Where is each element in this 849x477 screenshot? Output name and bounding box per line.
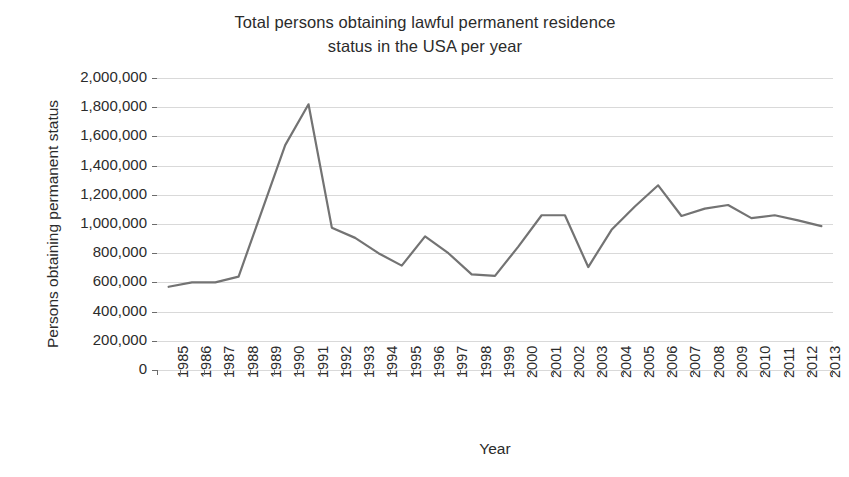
x-axis-tick-mark — [274, 370, 275, 375]
y-axis-tick-label: 1,600,000 — [47, 126, 147, 143]
x-axis-tick-label: 1986 — [198, 346, 214, 378]
x-axis-tick-mark — [437, 370, 438, 375]
x-axis-tick-mark — [297, 370, 298, 375]
y-axis-tick-labels: 2,000,0001,800,0001,600,0001,400,0001,20… — [47, 78, 147, 370]
x-axis-tick-label: 1987 — [221, 346, 237, 378]
x-axis-tick-label: 1990 — [291, 346, 307, 378]
x-axis-tick-label: 2009 — [734, 346, 750, 378]
x-axis-tick-mark — [367, 370, 368, 375]
x-axis-tick-mark — [553, 370, 554, 375]
x-axis-tick-label: 2006 — [664, 346, 680, 378]
line-chart: Total persons obtaining lawful permanent… — [0, 0, 849, 477]
x-axis-tick-label: 1993 — [361, 346, 377, 378]
chart-title: Total persons obtaining lawful permanent… — [120, 10, 730, 58]
x-axis-tick-mark — [413, 370, 414, 375]
x-axis-tick-label: 2000 — [524, 346, 540, 378]
y-axis-tick-label: 400,000 — [47, 302, 147, 319]
x-axis-tick-label: 2005 — [641, 346, 657, 378]
x-axis-tick-mark — [810, 370, 811, 375]
x-axis-tick-label: 1996 — [431, 346, 447, 378]
x-axis-tick-label: 2010 — [757, 346, 773, 378]
x-axis-tick-mark — [530, 370, 531, 375]
x-axis-tick-label: 1994 — [384, 346, 400, 378]
x-axis-tick-mark — [250, 370, 251, 375]
x-axis-tick-mark — [180, 370, 181, 375]
plot-area — [157, 78, 833, 370]
x-axis-tick-mark — [460, 370, 461, 375]
x-axis-tick-label: 1988 — [245, 346, 261, 378]
x-axis-tick-mark — [577, 370, 578, 375]
x-axis-tick-label: 2004 — [618, 346, 634, 378]
x-axis-tick-mark — [320, 370, 321, 375]
series-line — [157, 78, 833, 370]
x-axis-tick-label: 1992 — [338, 346, 354, 378]
x-axis-tick-label: 1998 — [478, 346, 494, 378]
x-axis-tick-label: 1991 — [315, 346, 331, 378]
x-axis-tick-mark — [623, 370, 624, 375]
x-axis-tick-mark — [832, 370, 833, 375]
x-axis-tick-label: 1989 — [268, 346, 284, 378]
x-axis-tick-label: 2008 — [711, 346, 727, 378]
y-axis-tick-label: 1,000,000 — [47, 214, 147, 231]
x-axis-tick-mark — [647, 370, 648, 375]
x-axis-tick-label: 2002 — [571, 346, 587, 378]
x-axis-tick-mark — [716, 370, 717, 375]
y-axis-tick-label: 1,800,000 — [47, 97, 147, 114]
x-axis-tick-labels: 1985198619871988198919901991199219931994… — [157, 370, 833, 440]
x-axis-tick-mark — [483, 370, 484, 375]
x-axis-tick-label: 2012 — [804, 346, 820, 378]
x-axis-tick-mark — [600, 370, 601, 375]
x-axis-tick-mark — [693, 370, 694, 375]
x-axis-tick-mark — [390, 370, 391, 375]
y-axis-tick-label: 800,000 — [47, 243, 147, 260]
y-axis-tick-label: 1,200,000 — [47, 185, 147, 202]
y-axis-tick-label: 600,000 — [47, 272, 147, 289]
x-axis-tick-mark — [786, 370, 787, 375]
y-axis-tick-label: 0 — [47, 360, 147, 377]
x-axis-tick-label: 2011 — [781, 347, 797, 378]
y-axis-tick-label: 2,000,000 — [47, 68, 147, 85]
x-axis-tick-mark — [740, 370, 741, 375]
x-axis-tick-label: 2013 — [827, 346, 843, 378]
x-axis-tick-mark — [670, 370, 671, 375]
x-axis-tick-label: 1985 — [175, 346, 191, 378]
x-axis-tick-mark — [157, 370, 158, 375]
x-axis-title: Year — [157, 440, 833, 458]
x-axis-tick-mark — [507, 370, 508, 375]
x-axis-tick-mark — [763, 370, 764, 375]
x-axis-tick-mark — [343, 370, 344, 375]
x-axis-tick-label: 1997 — [454, 346, 470, 378]
y-axis-tick-label: 200,000 — [47, 331, 147, 348]
chart-title-line-1: Total persons obtaining lawful permanent… — [120, 10, 730, 34]
y-axis-tick-label: 1,400,000 — [47, 156, 147, 173]
chart-title-line-2: status in the USA per year — [120, 34, 730, 58]
x-axis-tick-label: 1999 — [501, 346, 517, 378]
x-axis-tick-mark — [204, 370, 205, 375]
x-axis-tick-label: 2003 — [594, 346, 610, 378]
x-axis-tick-label: 1995 — [408, 346, 424, 378]
x-axis-tick-label: 2001 — [548, 346, 564, 378]
x-axis-tick-mark — [227, 370, 228, 375]
x-axis-tick-label: 2007 — [687, 346, 703, 378]
